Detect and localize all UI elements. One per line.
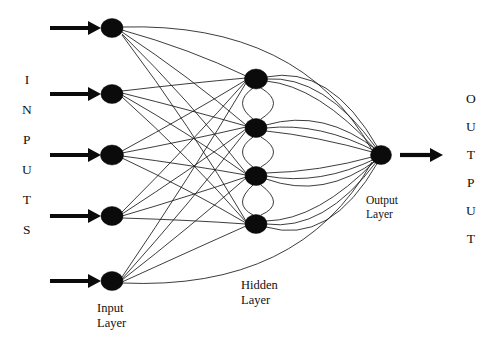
edge-i2-h4 bbox=[122, 97, 246, 222]
edges-input-to-hidden bbox=[122, 30, 246, 282]
output-arrow-head bbox=[430, 148, 443, 162]
output-letter-4: P bbox=[467, 176, 475, 190]
output-layer-nodes bbox=[371, 146, 392, 165]
input-node-1[interactable] bbox=[101, 19, 123, 38]
hidden-layer-caption: Hidden Layer bbox=[241, 278, 278, 309]
edge-h2-out-c bbox=[266, 131, 376, 153]
inputs-letter-1: I bbox=[25, 73, 30, 87]
inputs-letter-5: T bbox=[23, 193, 31, 207]
edge-i5-h2 bbox=[122, 131, 246, 279]
edge-h1-h2-arc bbox=[243, 88, 254, 119]
hidden-node-1[interactable] bbox=[245, 69, 268, 89]
input-layer-nodes bbox=[101, 19, 124, 291]
inputs-letter-3: P bbox=[23, 133, 31, 147]
edge-h2-h3-arc bbox=[243, 137, 254, 167]
input-node-5[interactable] bbox=[101, 272, 123, 291]
input-arrow-head-4 bbox=[88, 209, 101, 223]
edge-h3-h4-arc-r bbox=[261, 185, 274, 215]
edges-hidden-interlayer-arcs bbox=[243, 88, 274, 215]
edge-i5-h1 bbox=[122, 83, 246, 277]
edges-hidden-to-output bbox=[266, 75, 378, 230]
input-layer-caption: Input Layer bbox=[97, 301, 126, 332]
edge-i4-h4 bbox=[122, 218, 246, 224]
output-node-1[interactable] bbox=[371, 146, 392, 165]
input-node-4[interactable] bbox=[101, 207, 123, 226]
edge-h3-h4-arc bbox=[243, 185, 254, 215]
neural-network-figure: I N P U T S O U T P U T Input Layer Hidd… bbox=[0, 0, 495, 347]
hidden-node-3[interactable] bbox=[245, 167, 267, 186]
edge-i1-h3 bbox=[122, 34, 246, 173]
output-arrow bbox=[400, 148, 443, 162]
edge-h4-out-a bbox=[266, 160, 376, 221]
edge-i2-h1 bbox=[122, 78, 246, 91]
output-letter-6: T bbox=[467, 232, 475, 246]
output-side-label: O U T P U T bbox=[466, 92, 476, 260]
edge-h1-out-a bbox=[266, 75, 378, 148]
inputs-side-label: I N P U T S bbox=[22, 73, 32, 253]
input-arrows bbox=[50, 21, 101, 288]
hidden-node-4[interactable] bbox=[245, 215, 267, 234]
input-node-2[interactable] bbox=[101, 85, 123, 104]
edges-long-sweeping bbox=[122, 27, 372, 284]
input-arrow-head-1 bbox=[88, 21, 101, 35]
hidden-node-2[interactable] bbox=[245, 119, 267, 138]
output-letter-1: O bbox=[466, 92, 476, 106]
edge-h3-out-a bbox=[266, 156, 376, 173]
edge-i4-h1 bbox=[122, 81, 246, 212]
output-layer-caption: Output Layer bbox=[366, 193, 398, 221]
input-arrow-head-2 bbox=[88, 87, 101, 101]
inputs-letter-6: S bbox=[23, 223, 31, 237]
output-letter-2: U bbox=[466, 120, 476, 134]
output-letter-3: T bbox=[467, 148, 475, 162]
edge-i1-h2 bbox=[122, 32, 246, 125]
edge-h2-h3-arc-r bbox=[261, 137, 274, 167]
inputs-letter-2: N bbox=[22, 103, 32, 117]
input-arrow-head-3 bbox=[88, 148, 101, 162]
hidden-layer-nodes bbox=[245, 69, 268, 234]
inputs-letter-4: U bbox=[22, 163, 32, 177]
input-node-3[interactable] bbox=[101, 145, 124, 165]
edge-i3-h3 bbox=[122, 156, 246, 175]
edge-i2-h3 bbox=[122, 95, 246, 174]
input-arrow-head-5 bbox=[88, 274, 101, 288]
edge-h2-out-a bbox=[266, 120, 378, 151]
output-letter-5: U bbox=[466, 204, 476, 218]
edge-h1-h2-arc-r bbox=[261, 88, 274, 119]
